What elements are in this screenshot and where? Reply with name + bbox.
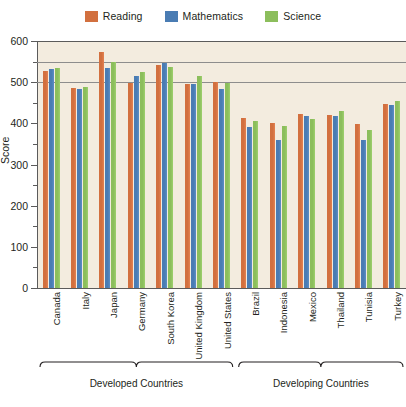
bar-reading[interactable] bbox=[99, 52, 104, 288]
bar-reading[interactable] bbox=[298, 114, 303, 288]
x-axis-label: Thailand bbox=[335, 292, 346, 328]
bar-group bbox=[94, 41, 122, 288]
bar-reading[interactable] bbox=[156, 65, 161, 288]
bar-science[interactable] bbox=[111, 62, 116, 288]
x-label-cell: Japan bbox=[94, 290, 122, 352]
bar-science[interactable] bbox=[168, 67, 173, 288]
bar-science[interactable] bbox=[225, 83, 230, 288]
bar-reading[interactable] bbox=[185, 84, 190, 288]
legend-entry-science: Science bbox=[265, 10, 321, 22]
group-braces: Developed Countries Developing Countries bbox=[37, 356, 406, 378]
group-label-developed: Developed Countries bbox=[90, 378, 183, 389]
x-label-cell: United States bbox=[207, 290, 235, 352]
bar-science[interactable] bbox=[197, 76, 202, 288]
bar-mathematics[interactable] bbox=[389, 105, 394, 288]
bar-mathematics[interactable] bbox=[304, 116, 309, 288]
x-label-cell: Brazil bbox=[236, 290, 264, 352]
bar-science[interactable] bbox=[253, 121, 258, 288]
x-label-cell: South Korea bbox=[151, 290, 179, 352]
x-axis-label: Italy bbox=[80, 292, 91, 309]
x-axis-line bbox=[37, 288, 406, 289]
x-axis-label: United States bbox=[222, 292, 233, 349]
group-label-developing: Developing Countries bbox=[273, 378, 369, 389]
chart-legend: Reading Mathematics Science bbox=[0, 6, 406, 26]
bar-mathematics[interactable] bbox=[191, 84, 196, 288]
bar-science[interactable] bbox=[140, 72, 145, 288]
bar-group bbox=[207, 41, 235, 288]
x-axis-label: Germany bbox=[136, 292, 147, 331]
bar-reading[interactable] bbox=[128, 83, 133, 288]
legend-swatch-science-icon bbox=[265, 11, 278, 22]
bar-mathematics[interactable] bbox=[77, 89, 82, 288]
bar-groups bbox=[37, 41, 406, 288]
bar-science[interactable] bbox=[367, 130, 372, 288]
legend-entry-reading: Reading bbox=[85, 10, 143, 22]
bar-group bbox=[37, 41, 65, 288]
bar-group bbox=[65, 41, 93, 288]
bar-reading[interactable] bbox=[355, 124, 360, 288]
bar-mathematics[interactable] bbox=[333, 116, 338, 288]
x-axis-category-labels: CanadaItalyJapanGermanySouth KoreaUnited… bbox=[37, 290, 406, 352]
bar-group bbox=[378, 41, 406, 288]
legend-swatch-reading-icon bbox=[85, 11, 98, 22]
bar-mathematics[interactable] bbox=[134, 76, 139, 288]
bar-science[interactable] bbox=[83, 87, 88, 288]
x-label-cell: United Kingdom bbox=[179, 290, 207, 352]
bar-group bbox=[321, 41, 349, 288]
bar-group bbox=[264, 41, 292, 288]
y-axis-tick-labels: 0100200300400500600 bbox=[0, 41, 28, 289]
x-axis-label: Indonesia bbox=[278, 292, 289, 333]
x-label-cell: Turkey bbox=[378, 290, 406, 352]
plot-region bbox=[37, 41, 406, 288]
bar-reading[interactable] bbox=[383, 104, 388, 288]
bar-reading[interactable] bbox=[327, 115, 332, 288]
legend-entry-mathematics: Mathematics bbox=[165, 10, 244, 22]
x-axis-label: Japan bbox=[108, 292, 119, 318]
bar-reading[interactable] bbox=[43, 71, 48, 288]
y-tick-label: 400 bbox=[10, 117, 28, 129]
bar-mathematics[interactable] bbox=[361, 140, 366, 288]
x-label-cell: Italy bbox=[65, 290, 93, 352]
bar-mathematics[interactable] bbox=[105, 68, 110, 288]
x-label-cell: Mexico bbox=[293, 290, 321, 352]
x-axis-label: United Kingdom bbox=[193, 292, 204, 360]
x-label-cell: Tunisia bbox=[349, 290, 377, 352]
x-label-cell: Thailand bbox=[321, 290, 349, 352]
x-axis-label: South Korea bbox=[165, 292, 176, 345]
bar-mathematics[interactable] bbox=[162, 63, 167, 288]
legend-label-mathematics: Mathematics bbox=[183, 10, 244, 22]
y-tick-label: 0 bbox=[22, 282, 28, 294]
bar-mathematics[interactable] bbox=[49, 69, 54, 288]
brace-svg bbox=[37, 356, 406, 376]
y-tick-label: 200 bbox=[10, 200, 28, 212]
x-label-cell: Canada bbox=[37, 290, 65, 352]
bar-group bbox=[236, 41, 264, 288]
bar-group bbox=[122, 41, 150, 288]
bar-science[interactable] bbox=[310, 119, 315, 288]
bar-science[interactable] bbox=[339, 111, 344, 288]
bar-science[interactable] bbox=[282, 126, 287, 288]
bar-mathematics[interactable] bbox=[219, 89, 224, 288]
bar-reading[interactable] bbox=[213, 82, 218, 288]
legend-label-reading: Reading bbox=[103, 10, 143, 22]
bar-reading[interactable] bbox=[71, 88, 76, 288]
x-label-cell: Indonesia bbox=[264, 290, 292, 352]
legend-label-science: Science bbox=[283, 10, 321, 22]
x-axis-label: Turkey bbox=[392, 292, 403, 321]
y-tick-label: 500 bbox=[10, 76, 28, 88]
bar-mathematics[interactable] bbox=[247, 127, 252, 288]
bar-group bbox=[151, 41, 179, 288]
bar-reading[interactable] bbox=[241, 118, 246, 288]
bar-mathematics[interactable] bbox=[276, 140, 281, 288]
x-axis-label: Mexico bbox=[307, 292, 318, 322]
x-axis-label: Tunisia bbox=[363, 292, 374, 322]
bar-science[interactable] bbox=[395, 101, 400, 288]
y-tick-label: 100 bbox=[10, 241, 28, 253]
legend-swatch-mathematics-icon bbox=[165, 11, 178, 22]
x-label-cell: Germany bbox=[122, 290, 150, 352]
bar-reading[interactable] bbox=[270, 123, 275, 288]
bar-science[interactable] bbox=[55, 68, 60, 288]
x-axis-label: Canada bbox=[51, 292, 62, 325]
y-tick-label: 300 bbox=[10, 159, 28, 171]
bar-group bbox=[179, 41, 207, 288]
